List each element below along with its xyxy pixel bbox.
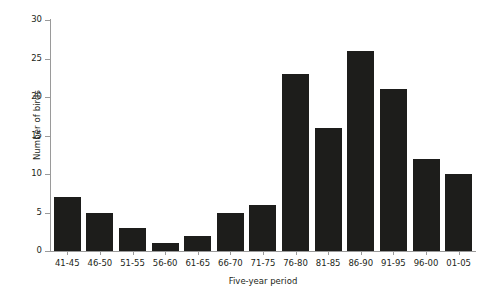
x-axis-tick-label: 01-05: [446, 258, 471, 268]
x-axis-tick-label: 91-95: [381, 258, 406, 268]
y-axis-tick-label: 0: [37, 245, 42, 256]
x-axis-tick-label: 81-85: [316, 258, 341, 268]
x-axis-tick-mark: [393, 251, 394, 255]
bar-slot: [214, 20, 247, 251]
x-axis-title: Five-year period: [51, 276, 475, 286]
bar: [119, 228, 146, 251]
x-axis-tick-label: 56-60: [153, 258, 178, 268]
x-axis-tick-mark: [328, 251, 329, 255]
y-axis-tick-label: 15: [31, 130, 42, 141]
bar: [380, 89, 407, 251]
x-axis-tick-label: 61-65: [185, 258, 210, 268]
x-axis-tick-label: 66-70: [218, 258, 243, 268]
y-axis-tick-mark: [45, 97, 50, 98]
bar: [413, 159, 440, 251]
bar: [54, 197, 81, 251]
x-axis-tick-mark: [426, 251, 427, 255]
x-axis-tick-label: 96-00: [414, 258, 439, 268]
bar: [282, 74, 309, 251]
x-axis-tick-mark: [459, 251, 460, 255]
bar: [445, 174, 472, 251]
x-axis-tick-mark: [361, 251, 362, 255]
x-axis-tick-mark: [133, 251, 134, 255]
y-axis-tick-mark: [45, 59, 50, 60]
bar-slot: [116, 20, 149, 251]
x-axis-tick-mark: [296, 251, 297, 255]
y-axis-tick-mark: [45, 251, 50, 252]
y-axis-tick-label: 5: [37, 207, 42, 218]
x-axis-tick-label: 86-90: [348, 258, 373, 268]
y-axis-tick-mark: [45, 213, 50, 214]
bar: [184, 236, 211, 251]
x-axis-tick-mark: [230, 251, 231, 255]
bars-layer: [51, 20, 475, 251]
bar-slot: [410, 20, 443, 251]
bar: [217, 213, 244, 252]
bar-slot: [279, 20, 312, 251]
bar-chart: Number of birds 051015202530 41-4546-505…: [0, 0, 486, 300]
bar-slot: [312, 20, 345, 251]
bar: [249, 205, 276, 251]
x-axis-tick-mark: [165, 251, 166, 255]
y-axis-tick-label: 20: [31, 91, 42, 102]
x-axis-tick-label: 76-80: [283, 258, 308, 268]
y-axis-tick-mark: [45, 174, 50, 175]
bar-slot: [51, 20, 84, 251]
x-axis-tick-mark: [198, 251, 199, 255]
x-axis-tick-label: 41-45: [55, 258, 80, 268]
y-axis-tick-mark: [45, 136, 50, 137]
bar: [315, 128, 342, 251]
bar-slot: [84, 20, 117, 251]
bar: [152, 243, 179, 251]
bar: [347, 51, 374, 251]
y-axis-tick-label: 10: [31, 168, 42, 179]
x-axis-tick-mark: [67, 251, 68, 255]
bar-slot: [181, 20, 214, 251]
y-axis-tick-label: 25: [31, 53, 42, 64]
y-axis-tick-label: 30: [31, 14, 42, 25]
x-axis-tick-label: 51-55: [120, 258, 145, 268]
bar-slot: [442, 20, 475, 251]
bar-slot: [344, 20, 377, 251]
bar-slot: [377, 20, 410, 251]
x-axis-tick-label: 71-75: [251, 258, 276, 268]
x-axis-tick-mark: [100, 251, 101, 255]
x-axis-tick-label: 46-50: [88, 258, 113, 268]
y-axis-tick-mark: [45, 20, 50, 21]
x-axis-tick-mark: [263, 251, 264, 255]
bar-slot: [149, 20, 182, 251]
bar: [86, 213, 113, 252]
bar-slot: [247, 20, 280, 251]
